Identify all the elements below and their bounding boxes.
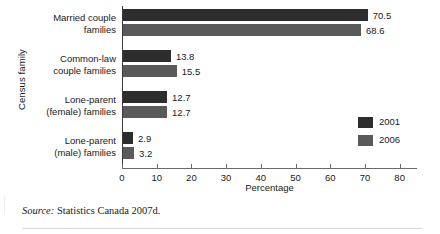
category-label-2: Common-lawcouple families	[18, 53, 116, 76]
legend-label-2001: 2001	[379, 115, 400, 129]
bar-value-label-2006-2: 15.5	[182, 66, 201, 77]
category-label-line: Married couple	[18, 12, 116, 24]
category-label-4: Lone-parent(male) families	[18, 135, 116, 158]
bar-value-label-2006-3: 12.7	[172, 107, 191, 118]
category-label-line: couple families	[18, 65, 116, 77]
bar-2001-2	[123, 50, 171, 62]
x-tick-mark-60	[330, 164, 331, 169]
category-label-line: Lone-parent	[18, 94, 116, 106]
bar-2001-1	[123, 9, 368, 21]
x-tick-mark-80	[400, 164, 401, 169]
category-axis-labels: Married couplefamiliesCommon-lawcouple f…	[18, 8, 116, 164]
bar-2006-1	[123, 24, 361, 36]
category-label-line: (female) families	[18, 106, 116, 118]
source-label: Source:	[22, 205, 54, 216]
x-tick-mark-30	[226, 164, 227, 169]
x-tick-mark-50	[296, 164, 297, 169]
category-label-line: families	[18, 24, 116, 36]
left-rule	[4, 196, 5, 214]
x-tick-mark-20	[191, 164, 192, 169]
category-label-line: (male) families	[18, 147, 116, 159]
bar-value-label-2006-4: 3.2	[139, 148, 152, 159]
bar-value-label-2001-4: 2.9	[138, 133, 151, 144]
category-label-3: Lone-parent(female) families	[18, 94, 116, 117]
source-note: Source: Statistics Canada 2007d.	[22, 205, 160, 216]
x-tick-mark-40	[261, 164, 262, 169]
bar-2006-4	[123, 147, 134, 159]
legend-label-2006: 2006	[379, 133, 400, 147]
bar-value-label-2001-1: 70.5	[373, 10, 392, 21]
legend-swatch-2001	[358, 117, 373, 128]
bar-2006-2	[123, 65, 177, 77]
x-tick-mark-10	[157, 164, 158, 169]
x-tick-mark-70	[365, 164, 366, 169]
category-label-1: Married couplefamilies	[18, 12, 116, 35]
category-label-line: Lone-parent	[18, 135, 116, 147]
bar-value-label-2006-1: 68.6	[366, 25, 385, 36]
bottom-rule	[22, 228, 422, 229]
bar-value-label-2001-2: 13.8	[176, 51, 195, 62]
bar-2001-4	[123, 132, 133, 144]
x-axis-title: Percentage	[122, 182, 417, 193]
bar-value-label-2001-3: 12.7	[172, 92, 191, 103]
category-label-line: Common-law	[18, 53, 116, 65]
figure-horizontal-bar-chart: Census family Married couplefamiliesComm…	[0, 0, 440, 234]
bar-2001-3	[123, 91, 167, 103]
bar-2006-3	[123, 106, 167, 118]
x-tick-mark-0	[122, 164, 123, 169]
source-text: Statistics Canada 2007d.	[54, 205, 160, 216]
x-axis-line	[122, 168, 417, 169]
legend-swatch-2006	[358, 135, 373, 146]
